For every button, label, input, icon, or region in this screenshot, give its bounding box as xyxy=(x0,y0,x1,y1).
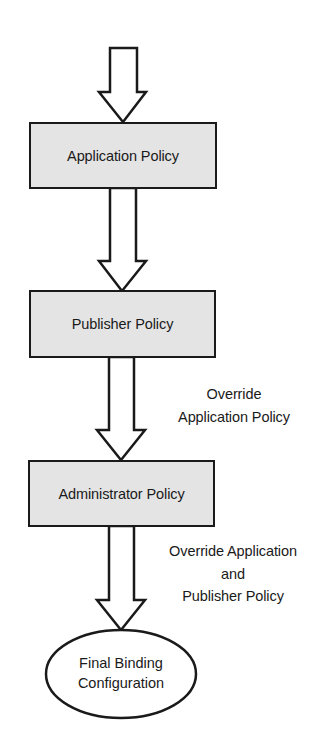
administrator-policy-label: Administrator Policy xyxy=(58,486,184,502)
annotation-line: Override xyxy=(158,383,310,406)
administrator-policy-box: Administrator Policy xyxy=(28,460,215,527)
annotation-line: Override Application xyxy=(146,540,320,563)
arrow-administrator-to-final-icon xyxy=(97,526,145,630)
override-application-and-publisher-annotation: Override Application and Publisher Polic… xyxy=(146,540,320,608)
application-policy-label: Application Policy xyxy=(67,148,179,164)
policy-flow-diagram: Application Policy Publisher Policy Admi… xyxy=(0,0,334,741)
publisher-policy-label: Publisher Policy xyxy=(72,316,174,332)
arrow-application-to-publisher-icon xyxy=(99,188,146,291)
final-binding-configuration-label: Final Binding Configuration xyxy=(46,653,196,693)
terminal-label-line: Final Binding xyxy=(46,653,196,673)
arrow-publisher-to-administrator-icon xyxy=(97,357,145,460)
override-application-annotation: Override Application Policy xyxy=(158,383,310,428)
connector-layer xyxy=(0,0,334,741)
entry-arrow-icon xyxy=(99,48,146,122)
terminal-label-line: Configuration xyxy=(46,673,196,693)
publisher-policy-box: Publisher Policy xyxy=(29,290,216,358)
annotation-line: and xyxy=(146,563,320,586)
annotation-line: Publisher Policy xyxy=(146,585,320,608)
annotation-line: Application Policy xyxy=(158,406,310,429)
application-policy-box: Application Policy xyxy=(29,122,217,189)
